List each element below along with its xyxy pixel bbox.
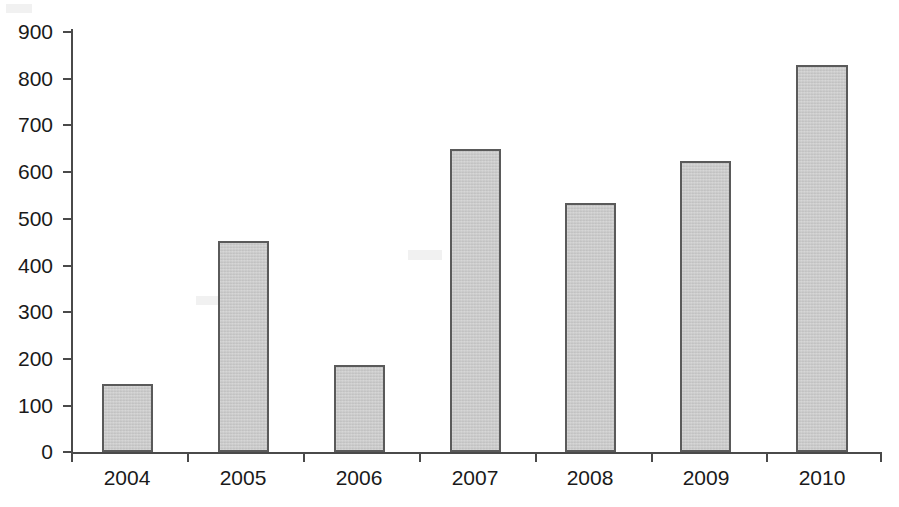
x-axis-tick [71, 452, 73, 462]
y-axis-tick-label: 100 [0, 395, 53, 416]
bar-2010[interactable] [796, 65, 848, 452]
x-axis-label-2005: 2005 [185, 466, 301, 490]
x-axis-tick [303, 452, 305, 462]
x-axis-line [71, 452, 882, 454]
y-axis-tick-label: 200 [0, 348, 53, 369]
y-axis-tick-label: 500 [0, 208, 53, 229]
x-axis-tick [651, 452, 653, 462]
y-axis-tick-label: 300 [0, 301, 53, 322]
y-axis-tick [63, 311, 72, 313]
y-axis-tick [63, 218, 72, 220]
bar-2005[interactable] [218, 241, 269, 452]
y-axis-tick-label: 0 [0, 441, 53, 462]
y-axis-tick-label: 800 [0, 68, 53, 89]
x-axis-tick [766, 452, 768, 462]
bar-2004[interactable] [102, 384, 153, 452]
scan-artifact [408, 250, 442, 260]
y-axis-line [71, 29, 73, 454]
x-axis-label-2009: 2009 [648, 466, 764, 490]
y-axis-tick [63, 405, 72, 407]
scan-artifact [6, 4, 32, 13]
bar-2007[interactable] [450, 149, 501, 452]
y-axis-tick [63, 124, 72, 126]
y-axis-tick [63, 265, 72, 267]
y-axis-tick [63, 358, 72, 360]
bar-2008[interactable] [565, 203, 616, 452]
x-axis-tick [880, 452, 882, 462]
x-axis-label-2004: 2004 [69, 466, 185, 490]
x-axis-tick [419, 452, 421, 462]
x-axis-label-2008: 2008 [532, 466, 648, 490]
y-axis-tick [63, 31, 72, 33]
y-axis-tick-label: 400 [0, 255, 53, 276]
x-axis-tick [187, 452, 189, 462]
bar-2006[interactable] [334, 365, 385, 452]
x-axis-label-2007: 2007 [417, 466, 533, 490]
y-axis-tick-label: 700 [0, 114, 53, 135]
y-axis-tick-label: 900 [0, 21, 53, 42]
x-axis-tick [535, 452, 537, 462]
bar-chart: 0 100 200 300 400 500 600 700 800 900 [0, 0, 899, 507]
y-axis-tick [63, 171, 72, 173]
plot-area: 0 100 200 300 400 500 600 700 800 900 [0, 0, 899, 507]
x-axis-label-2010: 2010 [764, 466, 880, 490]
bar-2009[interactable] [680, 161, 731, 452]
y-axis-tick-label: 600 [0, 161, 53, 182]
y-axis-tick [63, 78, 72, 80]
x-axis-label-2006: 2006 [301, 466, 417, 490]
